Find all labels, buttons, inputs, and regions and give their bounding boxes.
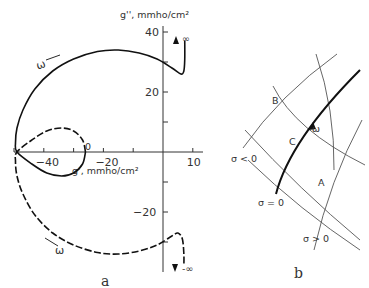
- grid-curve-5: [316, 54, 334, 170]
- omega-arrow-bottom: [45, 238, 58, 246]
- x-tick-label: 10: [187, 156, 201, 169]
- arrow-up-icon: [173, 36, 179, 44]
- dashed-curve: [15, 128, 184, 266]
- arrow-down-icon: [172, 264, 178, 272]
- x-axis-label: g', mmho/cm²: [72, 165, 139, 176]
- y-axis-label: g'', mmho/cm²: [120, 9, 189, 20]
- panel-a: −40−20104020−20 g'', mmho/cm² g', mmho/c…: [14, 9, 203, 288]
- grid-curve-2: [245, 130, 360, 240]
- infinity-label: ∞: [182, 33, 190, 44]
- x-tick-label: −40: [36, 156, 59, 169]
- point-c-label: C: [289, 136, 296, 147]
- y-tick-label: 40: [145, 26, 159, 39]
- sigma-eq-label: σ = 0: [258, 197, 284, 208]
- panel-b: ω B C A σ < 0 σ = 0 σ > 0 b: [231, 54, 365, 281]
- omega-label-top: ω: [34, 57, 47, 72]
- panel-a-label: a: [101, 273, 109, 288]
- omega-label-bottom: ω: [55, 244, 64, 257]
- omega-label-b: ω: [312, 123, 320, 134]
- point-a-label: A: [318, 177, 325, 188]
- panel-b-label: b: [294, 265, 303, 281]
- y-tick-label: 20: [145, 86, 159, 99]
- sigma-gt-label: σ > 0: [303, 233, 329, 244]
- grid-curve-1: [243, 54, 337, 148]
- point-b-label: B: [272, 95, 279, 106]
- omega-arrow-top: [46, 55, 60, 60]
- neg-infinity-label: -∞: [182, 263, 193, 274]
- y-tick-label: −20: [133, 206, 156, 219]
- figure: −40−20104020−20 g'', mmho/cm² g', mmho/c…: [0, 0, 369, 288]
- sigma-lt-label: σ < 0: [231, 153, 257, 164]
